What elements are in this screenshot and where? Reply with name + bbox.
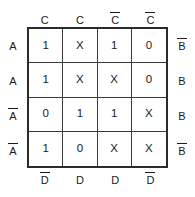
kmap-cell-r1c4: 0 <box>132 29 166 63</box>
row-header-left-1: A <box>1 27 25 62</box>
kmap-cell-r3c2: 1 <box>63 98 97 132</box>
variable-d: D <box>111 172 119 186</box>
row-header-right-2: B <box>170 62 194 97</box>
row-headers-right: B B B B <box>170 27 194 168</box>
row-header-left-4: A <box>1 133 25 168</box>
variable-a-negated: A <box>9 143 16 157</box>
kmap-cell-r1c1: 1 <box>29 29 63 63</box>
column-header-bottom-1: D <box>27 171 62 190</box>
kmap-cell-r3c4: X <box>132 98 166 132</box>
column-headers-bottom: D D D D <box>27 171 168 190</box>
variable-d-negated: D <box>41 172 49 186</box>
variable-d-negated: D <box>146 172 154 186</box>
kmap-cell-r2c3: X <box>98 63 132 97</box>
variable-c-negated: C <box>111 12 119 26</box>
kmap-cell-r3c1: 0 <box>29 98 63 132</box>
kmap-cell-r4c1: 1 <box>29 132 63 166</box>
row-headers-left: A A A A <box>1 27 25 168</box>
kmap-cell-r4c3: X <box>98 132 132 166</box>
variable-a: A <box>9 73 16 87</box>
kmap-cell-r4c4: X <box>132 132 166 166</box>
variable-b: B <box>178 73 185 87</box>
column-header-bottom-2: D <box>62 171 97 190</box>
variable-c: C <box>41 12 49 26</box>
column-header-top-1: C <box>27 9 62 26</box>
row-header-right-1: B <box>170 27 194 62</box>
kmap-cell-r4c2: 0 <box>63 132 97 166</box>
column-headers-top: C C C C <box>27 9 168 26</box>
column-header-top-2: C <box>62 9 97 26</box>
kmap-cell-r1c3: 1 <box>98 29 132 63</box>
kmap-cell-r3c3: 1 <box>98 98 132 132</box>
kmap-cell-r2c2: X <box>63 63 97 97</box>
column-header-bottom-3: D <box>98 171 133 190</box>
column-header-top-3: C <box>98 9 133 26</box>
variable-b-negated: B <box>178 143 185 157</box>
row-header-left-2: A <box>1 62 25 97</box>
variable-b: B <box>178 108 185 122</box>
kmap-cell-r2c1: 1 <box>29 63 63 97</box>
karnaugh-map-figure: C C C C A A A A 1X101XX0011X10XX B B B B… <box>0 0 195 197</box>
variable-d: D <box>76 172 84 186</box>
row-header-left-3: A <box>1 98 25 133</box>
column-header-top-4: C <box>133 9 168 26</box>
row-header-right-4: B <box>170 133 194 168</box>
variable-c-negated: C <box>146 12 154 26</box>
variable-b-negated: B <box>178 38 185 52</box>
karnaugh-map-grid: 1X101XX0011X10XX <box>27 27 168 168</box>
kmap-cell-r2c4: 0 <box>132 63 166 97</box>
variable-a-negated: A <box>9 108 16 122</box>
variable-a: A <box>9 38 16 52</box>
column-header-bottom-4: D <box>133 171 168 190</box>
variable-c: C <box>76 12 84 26</box>
kmap-cell-r1c2: X <box>63 29 97 63</box>
row-header-right-3: B <box>170 98 194 133</box>
